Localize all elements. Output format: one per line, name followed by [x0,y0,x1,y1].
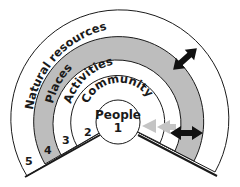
ring-number-2: 2 [84,126,92,139]
ring-number-4: 4 [44,144,52,157]
concentric-fan-diagram: People 1 Community Activities Places Nat… [0,0,240,187]
center-label: People [95,108,141,122]
arrow-light-shaft-icon [168,124,176,130]
center-number: 1 [114,121,122,135]
ring-number-3: 3 [62,134,70,147]
ring-number-5: 5 [25,155,33,168]
